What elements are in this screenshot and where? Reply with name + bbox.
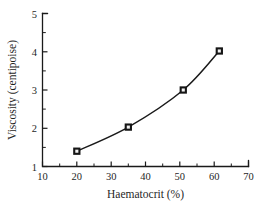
x-axis-ticks xyxy=(43,162,249,167)
plot-axes xyxy=(43,14,249,167)
x-tick-label: 30 xyxy=(106,171,117,182)
y-tick-label: 3 xyxy=(32,85,37,96)
y-tick-label: 4 xyxy=(32,47,38,58)
x-tick-label: 20 xyxy=(72,171,83,182)
data-point-marker xyxy=(74,149,79,154)
y-axis-ticks xyxy=(43,14,48,167)
chart-figure: 10 20 30 40 50 60 70 1 2 3 4 5 Haematocr… xyxy=(0,0,267,206)
x-tick-label: 40 xyxy=(140,171,151,182)
axis-lines xyxy=(43,14,249,167)
data-point-marker xyxy=(181,87,186,92)
y-tick-label: 5 xyxy=(32,9,37,20)
viscosity-haematocrit-chart: 10 20 30 40 50 60 70 1 2 3 4 5 Haematocr… xyxy=(0,0,267,206)
data-point-marker xyxy=(217,48,222,53)
y-axis-title: Viscosity (centipoise) xyxy=(6,40,19,140)
x-axis-title: Haematocrit (%) xyxy=(107,188,184,201)
x-tick-labels: 10 20 30 40 50 60 70 xyxy=(37,171,254,182)
y-tick-label: 2 xyxy=(32,123,37,134)
y-tick-labels: 1 2 3 4 5 xyxy=(32,9,38,173)
x-tick-label: 60 xyxy=(209,171,220,182)
data-point-marker xyxy=(126,125,131,130)
y-tick-label: 1 xyxy=(32,162,37,173)
x-tick-label: 70 xyxy=(243,171,254,182)
data-series-markers xyxy=(74,48,222,153)
x-tick-label: 50 xyxy=(175,171,186,182)
data-series-line xyxy=(77,51,219,151)
x-tick-label: 10 xyxy=(37,171,48,182)
